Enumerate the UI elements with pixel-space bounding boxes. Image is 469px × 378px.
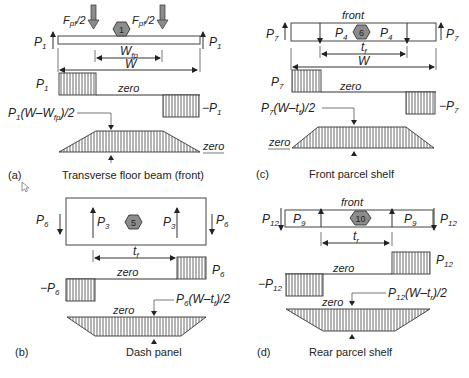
shear-pos-label: P12 (436, 253, 453, 269)
moment-zero-label: zero (112, 304, 134, 316)
reaction-label-left: P1 (34, 35, 46, 51)
dim-outer-label: W (125, 57, 138, 71)
shear-block-positive (392, 252, 430, 274)
load-label-right: Fpf/2 (132, 14, 155, 28)
shear-neg-label: −P6 (40, 281, 60, 297)
dim-outer-label: W (358, 54, 371, 68)
load-arrow-left (88, 5, 99, 29)
front-label: front (341, 196, 364, 208)
moment-support-arrow (151, 339, 157, 344)
moment-label: P1(W–Wfp)/2 (8, 106, 75, 122)
shear-zero-label: zero (116, 266, 138, 278)
moment-zero-label: zero (202, 140, 224, 152)
shear-neg-label: −P1 (202, 101, 221, 117)
beam-a (58, 36, 200, 44)
panel-tag: (c) (256, 168, 269, 180)
shear-block-positive (292, 70, 321, 92)
reaction-label-left: P6 (36, 213, 49, 229)
panel-caption: Rear parcel shelf (309, 346, 393, 358)
shear-block-negative (163, 95, 199, 117)
panel-a-transverse-floor-beam: Fpf/2 Fpf/2 1 P1 P1 Wfp W P1 zero −P1 P1… (8, 5, 224, 192)
load-arrow-right (157, 5, 168, 29)
shear-pos-label: P1 (36, 77, 48, 93)
shear-block-negative (66, 279, 95, 301)
reaction-label-left: P7 (266, 27, 279, 43)
moment-trapezoid (286, 309, 430, 331)
panel-caption: Dash panel (126, 346, 182, 358)
shear-block-positive (177, 257, 206, 279)
moment-leader-arrow (349, 301, 355, 306)
moment-leader (322, 108, 354, 122)
load-label-left: Fpf/2 (63, 14, 86, 28)
panel-caption: Front parcel shelf (309, 168, 395, 180)
panel-d-rear-parcel-shelf: front P9 P9 10 P12 P12 tr P12 zero −P12 … (257, 196, 457, 358)
moment-zero-label: zero (321, 296, 343, 308)
node-number: 10 (355, 214, 365, 224)
shear-block-positive (59, 73, 96, 95)
reaction-label-right: P1 (209, 35, 221, 51)
shear-zero-label: zero (332, 262, 354, 274)
reaction-label-left: P12 (262, 212, 279, 228)
shear-pos-label: P7 (271, 75, 284, 91)
reaction-label-right: P12 (440, 212, 457, 228)
shear-pos-label: P6 (212, 263, 225, 279)
shear-zero-label: zero (117, 82, 139, 94)
shear-neg-label: −P7 (439, 99, 459, 115)
moment-trapezoid (292, 127, 434, 148)
moment-leader (352, 293, 386, 303)
reaction-label-right: P6 (216, 213, 229, 229)
moment-trapezoid (67, 317, 206, 336)
moment-leader-arrow (151, 311, 157, 316)
panel-tag: (d) (257, 346, 270, 358)
diagram-canvas: Fpf/2 Fpf/2 1 P1 P1 Wfp W P1 zero −P1 P1… (0, 0, 469, 378)
moment-leader (154, 300, 174, 313)
panel-tag: (a) (8, 169, 21, 181)
moment-leader (77, 113, 111, 128)
panel-caption: Transverse floor beam (front) (62, 169, 204, 181)
moment-label: P6(W–tf)/2 (176, 292, 230, 308)
front-label: front (342, 9, 365, 21)
moment-label: P12(W–tr)/2 (388, 286, 447, 302)
moment-leader-arrow (108, 125, 114, 130)
moment-label: P7(W–tf)/2 (261, 101, 315, 117)
node-number: 5 (131, 218, 136, 228)
dim-inner-label: tr (353, 229, 359, 245)
moment-support-arrow (108, 155, 114, 160)
dim-inner-label: tf (133, 244, 139, 260)
panel-tag: (b) (15, 346, 28, 358)
reaction-label-right: P7 (446, 27, 459, 43)
moment-zero-label: zero (268, 136, 290, 148)
mouse-cursor-icon (22, 182, 29, 192)
moment-support-arrow (349, 334, 355, 339)
panel-b-dash-panel: P3 P3 5 P6 P6 tf P6 zero −P6 P6(W–tf)/2 … (15, 198, 230, 358)
shear-neg-label: −P12 (258, 277, 282, 293)
moment-support-arrow (351, 151, 357, 156)
node-number: 6 (359, 28, 364, 38)
shear-block-negative (406, 92, 435, 114)
moment-trapezoid (59, 131, 200, 152)
shear-block-negative (286, 274, 323, 296)
shear-zero-label: zero (339, 80, 361, 92)
panel-c-front-parcel-shelf: front P4 P4 6 P7 P7 tf W P7 zero −P7 P7(… (256, 9, 459, 180)
node-number: 1 (119, 25, 124, 35)
moment-leader-arrow (351, 120, 357, 125)
